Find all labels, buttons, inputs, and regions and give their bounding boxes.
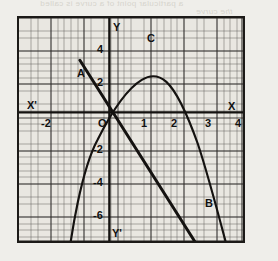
bleedthrough-line-1: a particular point of a curve is called [40, 0, 183, 8]
point-label-a: A [77, 68, 85, 79]
origin-label: O [98, 118, 107, 129]
y-tick-4: 4 [97, 44, 103, 55]
x-tick-3: 3 [205, 118, 211, 129]
y-tick-minus-6: -6 [93, 210, 103, 221]
bleedthrough-line-2: the curve [196, 7, 233, 16]
page-bleedthrough-text: a particular point of a curve is called … [0, 0, 278, 16]
x-tick-1: 1 [141, 118, 147, 129]
parabola-curve [62, 76, 227, 241]
y-tick-2: 2 [97, 77, 103, 88]
y-tick-minus-4: -4 [93, 177, 103, 188]
straight-line [80, 60, 238, 241]
point-label-b: B [205, 198, 213, 209]
x-tick-4: 4 [235, 118, 241, 129]
y-positive-axis-label: Y [113, 22, 120, 33]
x-tick-2: 2 [171, 118, 177, 129]
y-tick-minus-2: -2 [93, 144, 103, 155]
point-label-c: C [147, 33, 155, 44]
x-negative-axis-label: X' [27, 100, 37, 111]
x-tick-minus-2: -2 [41, 118, 51, 129]
y-negative-axis-label: Y' [112, 228, 122, 239]
x-positive-axis-label: X [228, 101, 235, 112]
graph-paper: X' X Y Y' O -2 1 2 3 4 4 2 -2 -4 -6 A B … [17, 16, 245, 243]
